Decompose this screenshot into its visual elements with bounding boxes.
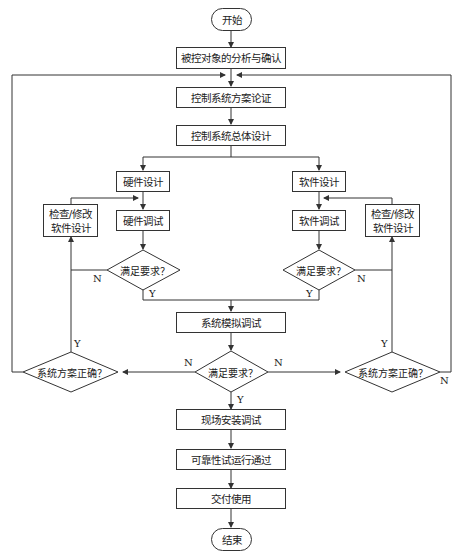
branch-label-sw-no: N [357,273,366,284]
decision-scheme-left-label: 系统方案正确？ [37,365,107,380]
step-sim-debug: 系统模拟调试 [176,312,286,333]
start-terminal: 开始 [211,8,252,31]
start-label: 开始 [222,13,242,27]
decision-scheme-right-label: 系统方案正确？ [358,365,428,380]
step-reliability: 可靠性试运行通过 [176,449,286,470]
step-hw-debug: 硬件调试 [116,210,170,231]
step-scheme-label: 控制系统方案论证 [191,91,271,105]
branch-label-hw-no: N [93,273,102,284]
branch-label-left-yes: Y [74,338,81,349]
step-delivery-label: 交付使用 [211,492,251,506]
step-hw-debug-label: 硬件调试 [123,214,163,228]
decision-sim-label: 满足要求？ [208,365,258,380]
step-hw-design: 硬件设计 [116,171,170,192]
step-site-install-label: 现场安装调试 [201,413,261,427]
step-sw-design: 软件设计 [292,171,346,192]
step-check-right-line1: 检查/修改 [371,207,415,221]
step-delivery: 交付使用 [176,488,286,509]
end-terminal: 结束 [211,528,252,551]
end-label: 结束 [222,533,242,547]
step-check-right-line2: 软件设计 [373,221,413,235]
decision-hw-label: 满足要求？ [120,263,170,278]
step-analysis-label: 被控对象的分析与确认 [181,51,281,65]
branch-label-sim-no-right: N [274,357,283,368]
step-sw-debug-label: 软件调试 [299,214,339,228]
branch-label-right-no: N [440,375,449,386]
step-sim-debug-label: 系统模拟调试 [201,316,261,330]
branch-label-sw-yes: Y [306,288,313,299]
step-check-left-line1: 检查/修改 [49,207,93,221]
step-check-right: 检查/修改 软件设计 [365,204,420,237]
branch-label-right-yes: Y [381,338,388,349]
step-overall-design-label: 控制系统总体设计 [191,129,271,143]
step-check-left-line2: 软件设计 [51,221,91,235]
step-check-left: 检查/修改 软件设计 [43,204,98,237]
step-sw-design-label: 软件设计 [299,175,339,189]
step-site-install: 现场安装调试 [176,409,286,430]
branch-label-sim-no-left: N [184,357,193,368]
step-scheme: 控制系统方案论证 [176,87,286,108]
decision-sw-label: 满足要求？ [296,263,346,278]
step-reliability-label: 可靠性试运行通过 [191,453,271,467]
step-analysis: 被控对象的分析与确认 [176,47,286,69]
branch-label-sim-yes: Y [237,394,244,405]
step-overall-design: 控制系统总体设计 [176,125,286,146]
step-hw-design-label: 硬件设计 [123,175,163,189]
connector-lines [0,0,459,559]
step-sw-debug: 软件调试 [292,210,346,231]
branch-label-hw-yes: Y [149,288,156,299]
